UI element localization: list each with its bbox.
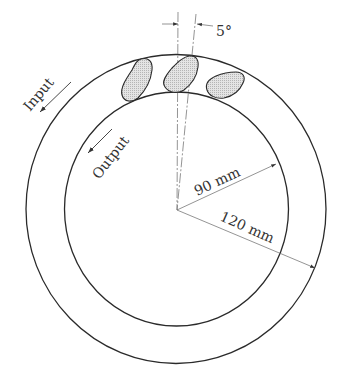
input-label: Input — [20, 74, 57, 114]
angle-label: 5° — [216, 23, 232, 39]
pad-center — [164, 56, 199, 93]
inner-ring — [65, 92, 289, 326]
pad-left — [122, 58, 153, 101]
outer-ring — [26, 55, 326, 364]
inner-radius-label: 90 mm — [192, 164, 243, 199]
output-label: Output — [89, 133, 132, 182]
vertical-centerline — [177, 12, 178, 210]
pad-right — [206, 72, 244, 98]
bearing-diagram: 5° Input Output 90 mm 120 mm — [0, 0, 344, 381]
outer-radius-label: 120 mm — [218, 208, 277, 246]
pivot-line — [177, 14, 196, 210]
angle-arrow-right — [197, 24, 213, 26]
